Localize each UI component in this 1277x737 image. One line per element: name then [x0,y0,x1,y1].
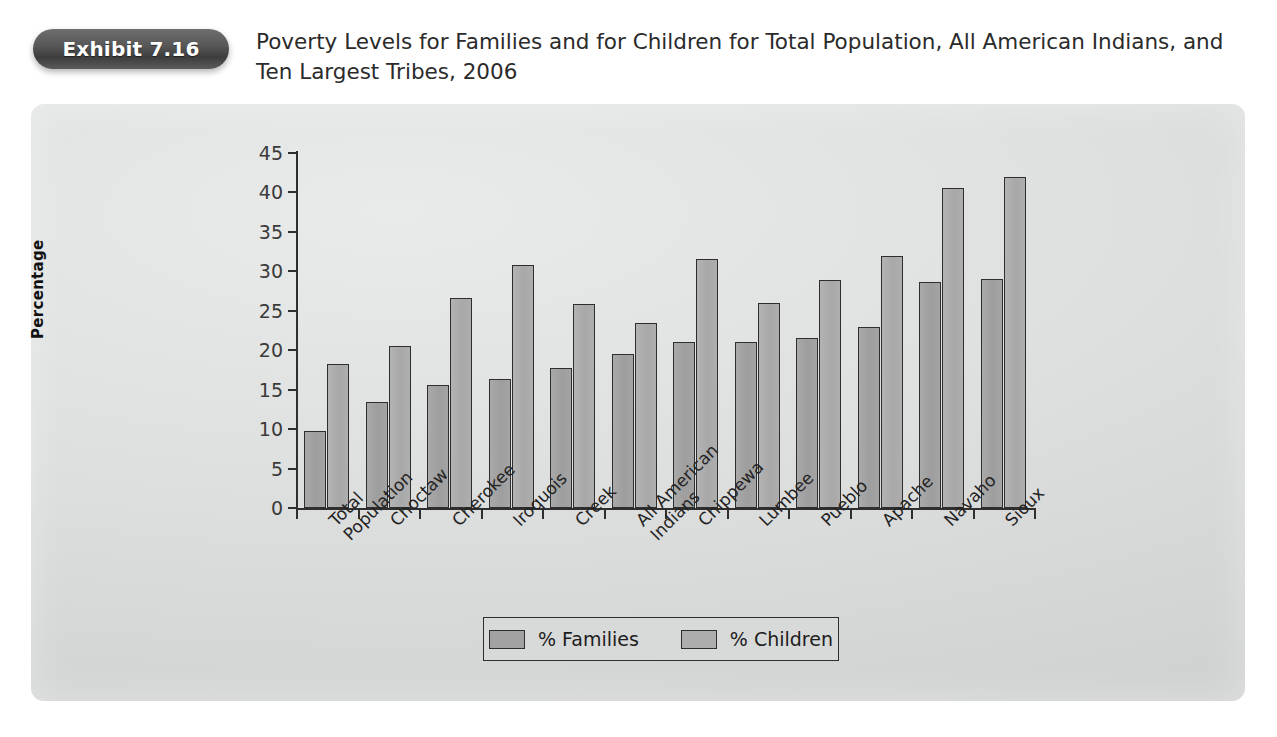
x-tick-8 [788,510,790,519]
y-tick-30 [288,270,297,272]
y-tick-label-35: 35 [243,221,283,243]
legend-swatch-families-icon [489,630,525,649]
y-tick-label-20: 20 [243,339,283,361]
bar-children-9 [881,256,903,508]
y-tick-5 [288,468,297,470]
bar-children-4 [573,304,595,508]
y-tick-label-5: 5 [243,458,283,480]
legend-label-children: % Children [730,628,833,650]
x-tick-10 [911,510,913,519]
y-tick-25 [288,310,297,312]
legend-label-families: % Families [538,628,639,650]
exhibit-header: Exhibit 7.16 Poverty Levels for Families… [0,0,1277,105]
legend-item-families: % Families [489,628,639,650]
y-tick-label-45: 45 [243,142,283,164]
bar-families-0 [304,431,326,508]
y-tick-15 [288,389,297,391]
x-tick-2 [419,510,421,519]
y-tick-label-30: 30 [243,260,283,282]
x-tick-0 [296,510,298,519]
y-axis-title: Percentage [29,239,47,339]
x-tick-4 [542,510,544,519]
bar-families-5 [612,354,634,508]
chart-legend: % Families % Children [483,617,839,661]
bar-children-5 [635,323,657,508]
y-tick-label-15: 15 [243,379,283,401]
y-tick-20 [288,349,297,351]
chart-panel: Percentage 051015202530354045 TotalPopul… [31,104,1245,701]
x-tick-12 [1034,510,1036,519]
bar-children-8 [819,280,841,508]
exhibit-badge-label: Exhibit 7.16 [33,29,229,69]
bar-chart-plot: Percentage 051015202530354045 TotalPopul… [31,104,1245,701]
y-tick-35 [288,231,297,233]
y-tick-0 [288,507,297,509]
bar-children-10 [942,188,964,508]
bar-children-11 [1004,177,1026,508]
y-axis-line [296,151,298,510]
y-tick-label-25: 25 [243,300,283,322]
y-tick-label-0: 0 [243,497,283,519]
legend-swatch-children-icon [681,630,717,649]
y-tick-45 [288,152,297,154]
exhibit-title: Poverty Levels for Families and for Chil… [256,27,1241,87]
y-tick-label-10: 10 [243,418,283,440]
y-tick-10 [288,428,297,430]
bar-children-0 [327,364,349,508]
bar-children-2 [450,298,472,508]
exhibit-badge: Exhibit 7.16 [33,29,229,69]
legend-item-children: % Children [681,628,833,650]
y-tick-40 [288,191,297,193]
y-tick-label-40: 40 [243,181,283,203]
